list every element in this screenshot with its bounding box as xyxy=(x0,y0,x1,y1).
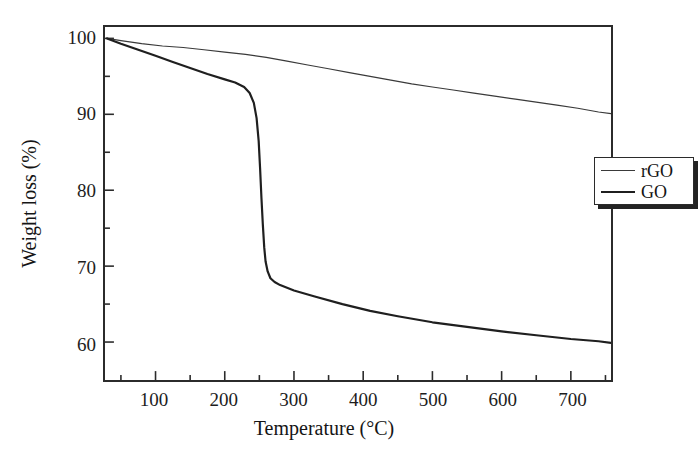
axis-ticks xyxy=(105,38,605,380)
legend-box: rGO GO xyxy=(594,157,694,205)
y-tick-label-80: 80 xyxy=(44,181,96,200)
data-series-group xyxy=(107,38,611,342)
legend-label-go: GO xyxy=(641,183,667,201)
legend-line-swatch-go xyxy=(601,191,635,193)
series-line-go xyxy=(107,38,611,342)
plot-area: rGO GO xyxy=(103,25,613,382)
legend-label-rgo: rGO xyxy=(641,162,673,180)
y-tick-label-60: 60 xyxy=(44,334,96,353)
curves-svg xyxy=(105,27,611,380)
x-tick-label-200: 200 xyxy=(209,390,238,409)
x-tick-label-300: 300 xyxy=(279,390,308,409)
series-line-rgo xyxy=(107,38,611,113)
x-tick-label-500: 500 xyxy=(419,390,448,409)
legend-item-rgo[interactable]: rGO xyxy=(601,160,693,181)
legend: rGO GO xyxy=(594,157,698,209)
y-axis-title-container: Weight loss (%) xyxy=(14,0,44,407)
legend-item-go[interactable]: GO xyxy=(601,181,693,202)
legend-line-swatch-rgo xyxy=(601,170,635,171)
x-axis-title: Temperature (°C) xyxy=(0,417,648,440)
y-tick-label-70: 70 xyxy=(44,257,96,276)
x-tick-label-600: 600 xyxy=(489,390,518,409)
x-tick-label-700: 700 xyxy=(558,390,587,409)
y-tick-label-100: 100 xyxy=(44,27,96,46)
x-tick-label-400: 400 xyxy=(349,390,378,409)
x-tick-label-100: 100 xyxy=(140,390,169,409)
y-tick-label-90: 90 xyxy=(44,104,96,123)
y-axis-title: Weight loss (%) xyxy=(18,139,41,267)
